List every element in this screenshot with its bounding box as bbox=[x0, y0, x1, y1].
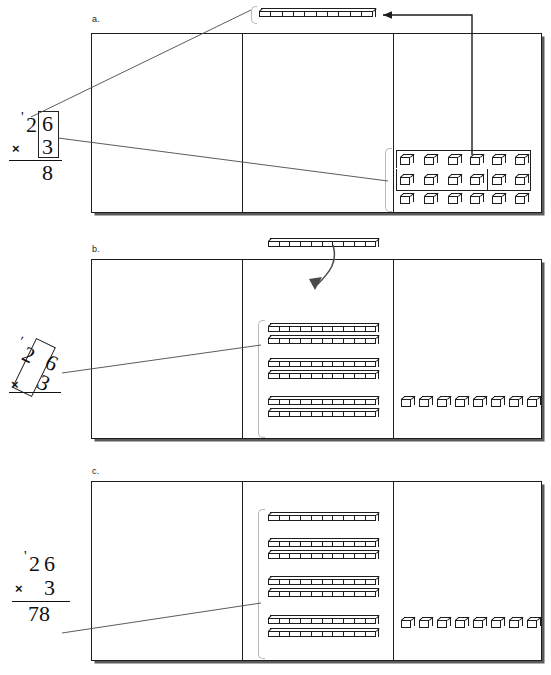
ones-column-highlight-a bbox=[38, 111, 59, 158]
regroup-mark-c: ' bbox=[24, 549, 27, 564]
product-a: 8 bbox=[42, 162, 53, 184]
multiplier-c: 3 bbox=[44, 577, 55, 599]
panel-label-a: a. bbox=[92, 14, 100, 24]
rod bbox=[268, 538, 379, 547]
mat-divider-hundreds-tens bbox=[242, 260, 243, 438]
mat-divider-hundreds-tens bbox=[242, 34, 243, 212]
regrouped-rod-a bbox=[259, 8, 376, 17]
regroup-ring-bottom-a bbox=[396, 168, 488, 191]
panel-b: b. × ' 2 bbox=[0, 230, 551, 452]
regroup-ring-mask-a bbox=[396, 168, 488, 169]
regroup-mark-b: ' bbox=[16, 334, 25, 349]
rod bbox=[268, 512, 379, 521]
panel-label-b: b. bbox=[92, 244, 100, 254]
rod bbox=[268, 588, 379, 597]
brace-tens-column-c bbox=[258, 509, 265, 659]
carried-rod-b bbox=[268, 238, 379, 247]
mat-divider-tens-ones bbox=[393, 260, 394, 438]
rod bbox=[268, 323, 379, 332]
rod bbox=[268, 628, 379, 637]
operator-c: × bbox=[15, 582, 23, 595]
brace-regrouped-rod-a bbox=[251, 6, 257, 24]
tens-digit-a: 2 bbox=[26, 114, 37, 136]
rod-front-face bbox=[259, 11, 373, 17]
panel-c: c. ' 2 6 × 3 78 bbox=[0, 452, 551, 675]
rod bbox=[268, 370, 379, 379]
brace-tens-column-b bbox=[258, 320, 265, 438]
rod bbox=[268, 358, 379, 367]
math-problem-a: ' 2 6 × 3 8 bbox=[6, 108, 86, 180]
rod-front-face bbox=[268, 241, 376, 247]
panel-label-c: c. bbox=[92, 466, 99, 476]
panel-a: a. bbox=[0, 0, 551, 230]
regroup-mark-a: ' bbox=[21, 110, 24, 125]
answer-bar-a bbox=[9, 160, 62, 161]
rod bbox=[268, 408, 379, 417]
brace-ones-column-a bbox=[385, 148, 392, 212]
rod bbox=[268, 615, 379, 624]
mat-divider-hundreds-tens bbox=[242, 482, 243, 660]
rod bbox=[268, 550, 379, 559]
mat-divider-tens-ones bbox=[393, 34, 394, 212]
math-problem-b: × ' 2 6 3 bbox=[8, 330, 88, 410]
tens-digit-c: 2 bbox=[29, 553, 40, 575]
math-problem-c: ' 2 6 × 3 78 bbox=[8, 547, 93, 627]
operator-a: × bbox=[12, 142, 20, 155]
ones-digit-c: 6 bbox=[44, 553, 55, 575]
rod bbox=[268, 576, 379, 585]
product-c: 78 bbox=[28, 603, 50, 625]
rod bbox=[268, 396, 379, 405]
mat-divider-tens-ones bbox=[393, 482, 394, 660]
rod bbox=[268, 335, 379, 344]
